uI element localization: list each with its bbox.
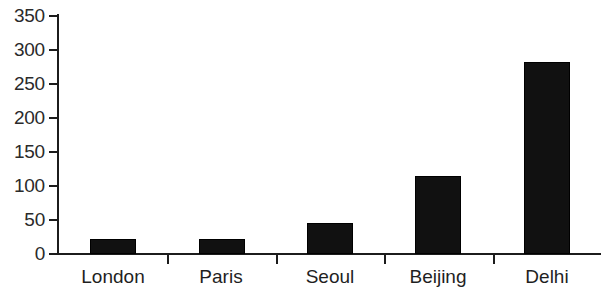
y-axis-tick: [49, 185, 58, 187]
y-axis-tick: [49, 49, 58, 51]
x-axis-tick: [276, 255, 278, 264]
y-axis-tick-label: 0: [0, 244, 45, 263]
bar-chart: 050100150200250300350 LondonParisSeoulBe…: [0, 0, 604, 293]
x-axis-tick: [493, 255, 495, 264]
y-axis-tick: [49, 117, 58, 119]
x-axis-label-beijing: Beijing: [384, 266, 492, 288]
x-axis-tick: [384, 255, 386, 264]
y-axis-tick-label: 350: [0, 6, 45, 25]
y-axis-tick-label: 100: [0, 176, 45, 195]
x-axis-label-seoul: Seoul: [276, 266, 384, 288]
y-axis-tick-label: 50: [0, 210, 45, 229]
y-axis-tick-label: 150: [0, 142, 45, 161]
y-axis-tick: [49, 15, 58, 17]
bar-paris: [199, 239, 245, 254]
y-axis-tick: [49, 83, 58, 85]
y-axis-tick-label: 200: [0, 108, 45, 127]
y-axis-tick-label: 250: [0, 74, 45, 93]
bar-delhi: [524, 62, 570, 254]
x-axis-label-paris: Paris: [167, 266, 275, 288]
y-axis-tick: [49, 151, 58, 153]
bar-seoul: [307, 223, 353, 254]
bar-beijing: [415, 176, 461, 254]
x-axis-tick: [167, 255, 169, 264]
x-axis-label-delhi: Delhi: [493, 266, 601, 288]
y-axis-tick: [49, 253, 58, 255]
x-axis-label-london: London: [59, 266, 167, 288]
y-axis-tick-label: 300: [0, 40, 45, 59]
y-axis-tick: [49, 219, 58, 221]
bar-london: [90, 239, 136, 254]
